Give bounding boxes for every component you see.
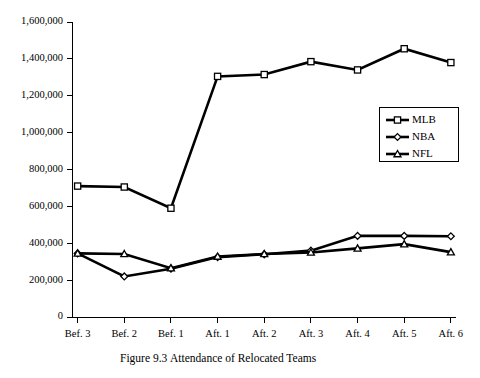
y-tick-label: 0 bbox=[58, 310, 63, 321]
caption-label: Figure 9.3 bbox=[120, 352, 168, 365]
legend-label-nba: NBA bbox=[412, 130, 435, 142]
data-point-mlb-2 bbox=[168, 205, 174, 211]
y-tick-label: 1,400,000 bbox=[21, 52, 63, 63]
data-point-mlb-5 bbox=[308, 59, 314, 65]
y-tick-label: 800,000 bbox=[29, 163, 63, 174]
data-point-mlb-6 bbox=[354, 67, 360, 73]
data-point-mlb-3 bbox=[214, 73, 220, 79]
x-tick-label: Aft. 5 bbox=[392, 328, 417, 339]
attendance-line-chart: 0200,000400,000600,000800,0001,000,0001,… bbox=[0, 0, 480, 378]
x-tick-label: Bef. 2 bbox=[111, 328, 137, 339]
y-tick-label: 1,600,000 bbox=[21, 15, 63, 26]
x-tick-label: Bef. 3 bbox=[65, 328, 91, 339]
data-point-mlb-4 bbox=[261, 71, 267, 77]
data-point-mlb-1 bbox=[121, 184, 127, 190]
chart-legend: MLBNBANFL bbox=[380, 108, 459, 162]
y-tick-label: 400,000 bbox=[29, 237, 63, 248]
x-tick-labels: Bef. 3Bef. 2Bef. 1Aft. 1Aft. 2Aft. 3Aft.… bbox=[65, 328, 463, 339]
x-tick-label: Aft. 2 bbox=[252, 328, 277, 339]
caption-title: Attendance of Relocated Teams bbox=[170, 352, 317, 364]
data-point-mlb-8 bbox=[448, 59, 454, 65]
data-point-mlb-0 bbox=[75, 183, 81, 189]
x-tick-label: Bef. 1 bbox=[158, 328, 184, 339]
y-tick-label: 200,000 bbox=[29, 274, 63, 285]
data-point-mlb-7 bbox=[401, 46, 407, 52]
x-tick-label: Aft. 1 bbox=[205, 328, 230, 339]
x-tick-label: Aft. 4 bbox=[345, 328, 370, 339]
legend-label-nfl: NFL bbox=[412, 147, 433, 159]
x-tick-label: Aft. 3 bbox=[299, 328, 324, 339]
legend-label-mlb: MLB bbox=[412, 113, 436, 125]
figure-caption: Figure 9.3 Attendance of Relocated Teams bbox=[120, 352, 317, 365]
y-tick-label: 1,000,000 bbox=[21, 126, 63, 137]
x-tick-label: Aft. 6 bbox=[439, 328, 464, 339]
legend-marker-mlb bbox=[394, 117, 400, 123]
y-tick-label: 1,200,000 bbox=[21, 89, 63, 100]
figure-container: 0200,000400,000600,000800,0001,000,0001,… bbox=[0, 0, 480, 378]
y-tick-label: 600,000 bbox=[29, 200, 63, 211]
